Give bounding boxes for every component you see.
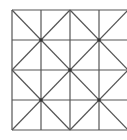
- grid-diagram: [0, 0, 127, 140]
